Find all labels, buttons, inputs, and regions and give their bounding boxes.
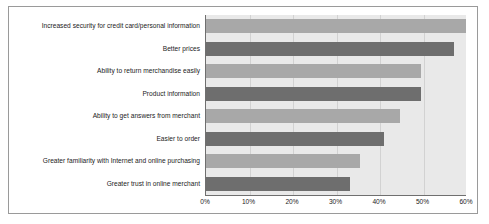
category-label: Ability to get answers from merchant	[9, 105, 204, 127]
category-label: Better prices	[9, 38, 204, 60]
bar	[206, 109, 400, 123]
bar	[206, 177, 350, 191]
category-label: Product information	[9, 83, 204, 105]
bar	[206, 154, 360, 168]
tick-label: 30%	[321, 197, 351, 207]
bar	[206, 42, 454, 56]
category-label: Increased security for credit card/perso…	[9, 15, 204, 37]
bar	[206, 132, 384, 146]
bar	[206, 87, 421, 101]
tick-label: 20%	[277, 197, 307, 207]
chart-figure: Increased security for credit card/perso…	[8, 6, 478, 214]
category-label: Greater familiarity with Internet and on…	[9, 150, 204, 172]
category-label: Easier to order	[9, 128, 204, 150]
tick-label: 10%	[234, 197, 264, 207]
tick-label: 60%	[451, 197, 481, 207]
bar	[206, 64, 421, 78]
x-axis-tick-labels: 0%10%20%30%40%50%60%	[205, 197, 470, 211]
tick-label: 0%	[190, 197, 220, 207]
category-label-axis: Increased security for credit card/perso…	[9, 15, 204, 195]
category-label: Greater trust in online merchant	[9, 173, 204, 195]
category-label: Ability to return merchandise easily	[9, 60, 204, 82]
plot-area	[205, 15, 466, 195]
tick-label: 40%	[364, 197, 394, 207]
x-axis-line	[205, 195, 466, 196]
bar	[206, 19, 466, 33]
tick-label: 50%	[408, 197, 438, 207]
